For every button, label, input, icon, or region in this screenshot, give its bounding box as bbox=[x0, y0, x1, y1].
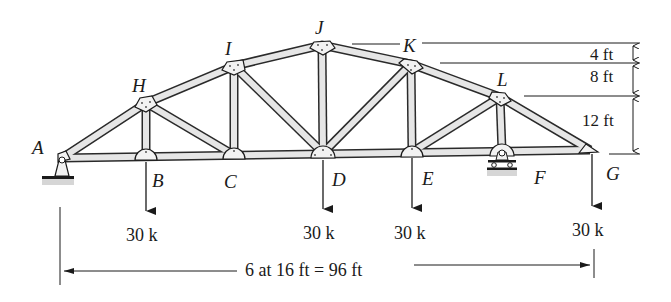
load-label-B: 30 k bbox=[126, 226, 158, 244]
height-label-8ft: 8 ft bbox=[590, 68, 613, 85]
truss-diagram bbox=[0, 0, 671, 302]
joint-label-J: J bbox=[315, 18, 323, 37]
height-label-4ft: 4 ft bbox=[590, 46, 613, 63]
joint-label-D: D bbox=[332, 170, 346, 189]
joint-label-H: H bbox=[132, 76, 146, 95]
plate-J bbox=[310, 41, 335, 55]
joint-label-B: B bbox=[152, 171, 164, 190]
height-label-12ft: 12 ft bbox=[582, 112, 614, 129]
joint-label-F: F bbox=[534, 168, 546, 187]
joint-label-K: K bbox=[403, 36, 416, 55]
load-label-E: 30 k bbox=[394, 224, 426, 242]
joint-label-A: A bbox=[32, 138, 44, 157]
load-arrows bbox=[146, 154, 592, 211]
load-label-G: 30 k bbox=[572, 221, 604, 239]
joint-label-E: E bbox=[422, 169, 434, 188]
joint-label-L: L bbox=[497, 70, 508, 89]
joint-label-C: C bbox=[224, 172, 237, 191]
joint-label-G: G bbox=[606, 164, 620, 183]
span-label: 6 at 16 ft = 96 ft bbox=[245, 261, 362, 279]
joint-label-I: I bbox=[225, 39, 231, 58]
plate-B bbox=[135, 149, 157, 160]
load-label-D: 30 k bbox=[303, 224, 335, 242]
